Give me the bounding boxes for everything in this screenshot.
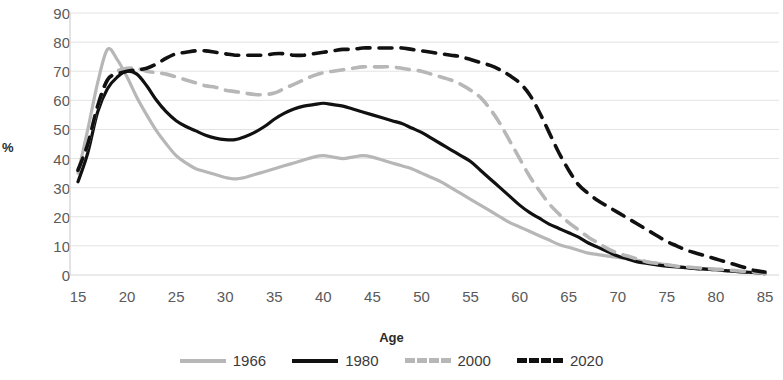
chart-container: % 9080706050403020100 152025303540455055… [0, 0, 783, 380]
x-tick-label: 25 [168, 288, 185, 305]
x-tick-label: 55 [462, 288, 479, 305]
legend-label: 2020 [570, 352, 603, 369]
x-tick-label: 75 [659, 288, 676, 305]
x-tick-label: 70 [609, 288, 626, 305]
x-tick-label: 80 [708, 288, 725, 305]
series-line-2000 [78, 67, 765, 274]
legend-item-1980[interactable]: 1980 [292, 352, 378, 369]
series-lines [78, 48, 765, 274]
x-tick-label: 40 [315, 288, 332, 305]
legend-label: 1980 [345, 352, 378, 369]
chart-legend: 1966198020002020 [0, 352, 783, 369]
legend-swatch-1966 [180, 359, 226, 363]
x-tick-label: 60 [511, 288, 528, 305]
legend-item-1966[interactable]: 1966 [180, 352, 266, 369]
legend-swatch-2000 [405, 358, 451, 363]
x-tick-label: 85 [757, 288, 774, 305]
x-tick-label: 45 [364, 288, 381, 305]
legend-swatch-1980 [292, 359, 338, 363]
legend-label: 2000 [458, 352, 491, 369]
x-tick-label: 15 [70, 288, 87, 305]
x-tick-label: 50 [413, 288, 430, 305]
x-tick-label: 20 [119, 288, 136, 305]
x-tick-label: 30 [217, 288, 234, 305]
x-axis-title: Age [0, 330, 783, 345]
legend-item-2020[interactable]: 2020 [517, 352, 603, 369]
legend-swatch-2020 [517, 358, 563, 363]
x-tick-label: 35 [266, 288, 283, 305]
legend-label: 1966 [233, 352, 266, 369]
legend-item-2000[interactable]: 2000 [405, 352, 491, 369]
x-tick-label: 65 [560, 288, 577, 305]
plot-area [0, 0, 783, 380]
